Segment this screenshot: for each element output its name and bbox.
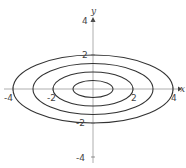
x-tick-label-4: 4 bbox=[171, 93, 177, 103]
x-tick-label-neg2: -2 bbox=[47, 93, 56, 103]
y-axis-label: y bbox=[90, 6, 97, 16]
y-tick-label-neg4: -4 bbox=[76, 153, 85, 163]
y-tick-label-neg2: -2 bbox=[76, 118, 85, 128]
x-axis-label: x bbox=[180, 84, 185, 94]
level-curve-diagram: x y -4 -2 2 4 4 2 -2 -4 bbox=[0, 0, 186, 168]
y-tick-label-2: 2 bbox=[82, 50, 88, 60]
x-tick-label-2: 2 bbox=[131, 93, 137, 103]
x-tick-label-neg4: -4 bbox=[4, 93, 13, 103]
y-tick-label-4: 4 bbox=[82, 16, 88, 26]
